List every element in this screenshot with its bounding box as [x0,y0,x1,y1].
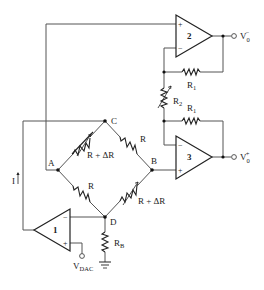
output-terminal-v0-minus [232,34,237,39]
label-resistor-ad: R [88,181,94,191]
svg-text:+: + [178,20,183,29]
opamp-1: − + 1 VDAC [34,209,93,272]
node-c [103,119,107,123]
label-r1-top: R1 [187,80,196,91]
node-b [150,168,154,172]
label-vdac: VDAC [73,261,93,272]
input-terminal-vdac [80,254,85,259]
label-resistor-ac: R + ΔR [87,150,114,160]
label-node-b: B [151,156,157,166]
output-terminal-v0-plus [232,155,237,160]
opamp-3-number: 3 [187,152,192,162]
opamp-1-number: 1 [53,225,58,235]
node-a [56,168,60,172]
label-r2: R2 [173,96,182,107]
wire-a-to-opamp2 [46,24,176,170]
label-resistor-db: R + ΔR [138,196,165,206]
resistor-cb [120,137,137,154]
label-node-c: C [111,116,117,126]
ground-icon [99,262,111,268]
opamp-2-number: 2 [187,31,192,41]
label-r1-bottom: R1 [187,103,196,114]
svg-text:−: − [63,213,68,222]
svg-text:+: + [178,166,183,175]
label-resistor-cb: R [140,134,146,144]
resistor-rb: RB [102,232,125,252]
resistor-r2: R2 [158,86,182,108]
label-v0-minus: V0− [240,29,250,43]
wheatstone-bridge: A C B D R + ΔR R R R + ΔR [48,116,165,227]
label-node-a: A [48,158,55,168]
label-v0-plus: V0+ [240,150,250,164]
wire-opamp2-minus [164,48,176,72]
circuit-diagram: A C B D R + ΔR R R R + ΔR + − 2 V0− R1 R… [0,0,264,290]
current-indicator: I [12,172,20,186]
label-current-i: I [12,176,15,186]
opamp-2: + − 2 V0− [176,15,250,57]
label-node-d: D [110,217,117,227]
svg-text:−: − [178,44,183,53]
node-d [103,215,107,219]
svg-text:−: − [178,141,183,150]
svg-text:+: + [63,239,68,248]
label-rb: RB [114,238,125,249]
